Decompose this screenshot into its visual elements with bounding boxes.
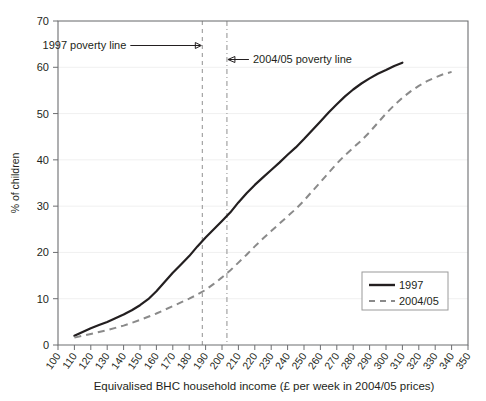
legend: 19972004/05: [362, 272, 448, 310]
x-tick-label: 250: [289, 350, 309, 371]
series-line-1997: [74, 63, 402, 336]
x-axis-ticks: 1001101201301401501601701801902002102202…: [43, 345, 473, 372]
x-tick-label: 330: [420, 350, 440, 371]
chart-container: 010203040506070 100110120130140150160170…: [0, 0, 486, 401]
y-tick-label: 60: [37, 61, 49, 73]
x-tick-label: 270: [322, 350, 342, 371]
x-tick-label: 350: [453, 350, 473, 371]
x-tick-label: 110: [60, 350, 80, 371]
y-axis-ticks: 010203040506070: [37, 15, 58, 351]
y-axis-title: % of children: [9, 152, 21, 213]
x-tick-label: 170: [158, 350, 178, 371]
x-tick-label: 310: [387, 350, 407, 371]
line-chart: 010203040506070 100110120130140150160170…: [0, 0, 486, 401]
annotation-arrow-200405: [228, 57, 249, 63]
x-tick-label: 190: [190, 350, 210, 371]
x-tick-label: 130: [92, 350, 112, 371]
x-tick-label: 220: [240, 350, 260, 371]
annotation-label-1997-poverty-line: 1997 poverty line: [43, 39, 127, 51]
x-tick-label: 300: [371, 350, 391, 371]
x-tick-label: 240: [272, 350, 292, 371]
x-tick-label: 320: [404, 350, 424, 371]
x-tick-label: 120: [76, 350, 96, 371]
x-tick-label: 160: [141, 350, 161, 371]
x-tick-label: 260: [305, 350, 325, 371]
x-tick-label: 100: [43, 350, 63, 371]
y-tick-label: 40: [37, 154, 49, 166]
x-tick-label: 280: [338, 350, 358, 371]
x-tick-label: 140: [108, 350, 128, 371]
x-tick-label: 200: [207, 350, 227, 371]
x-tick-label: 180: [174, 350, 194, 371]
y-tick-label: 70: [37, 15, 49, 27]
x-tick-label: 150: [125, 350, 145, 371]
x-tick-label: 210: [223, 350, 243, 371]
x-tick-label: 290: [354, 350, 374, 371]
legend-label-2004-05: 2004/05: [399, 295, 439, 307]
annotations: 1997 poverty line2004/05 poverty line: [43, 39, 352, 65]
annotation-label-200405-poverty-line: 2004/05 poverty line: [253, 53, 352, 65]
y-tick-label: 10: [37, 293, 49, 305]
y-tick-label: 30: [37, 200, 49, 212]
x-tick-label: 230: [256, 350, 276, 371]
annotation-arrow-1997: [130, 43, 201, 49]
poverty-reference-lines: [202, 21, 227, 345]
x-tick-label: 340: [436, 350, 456, 371]
legend-label-1997: 1997: [399, 279, 423, 291]
y-tick-label: 0: [43, 339, 49, 351]
x-axis-title: Equivalised BHC household income (£ per …: [94, 380, 435, 392]
y-tick-label: 50: [37, 108, 49, 120]
y-tick-label: 20: [37, 246, 49, 258]
